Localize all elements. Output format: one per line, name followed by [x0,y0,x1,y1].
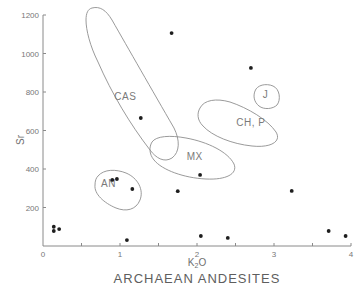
field-outline-an [95,170,141,210]
data-point [115,177,119,181]
data-point [139,116,143,120]
field-label: MX [187,151,203,162]
data-point [199,234,203,238]
data-point [290,189,294,193]
y-tick-label: 200 [26,204,40,213]
y-axis-title: Sr [15,134,26,145]
x-tick-label: 0 [41,250,46,259]
data-point [110,178,114,182]
fields-layer: CASMXCH, PJAN [86,8,279,210]
ticks-layer: 0123420040060080010001200 [21,11,354,259]
points-layer [52,31,348,242]
field-label: J [263,89,269,100]
data-point [344,234,348,238]
field-label: CAS [114,91,136,102]
data-point [52,225,56,229]
data-point [198,173,202,177]
y-tick-label: 1000 [21,50,39,59]
y-tick-label: 400 [26,165,40,174]
data-point [226,236,230,240]
data-point [176,189,180,193]
x-tick-label: 1 [118,250,123,259]
data-point [327,229,331,233]
chart-title: ARCHAEAN ANDESITES [114,271,281,286]
y-tick-label: 800 [26,88,40,97]
data-point [170,31,174,35]
x-axis-title-tail: O [198,257,206,268]
x-tick-label: 4 [349,250,354,259]
data-point [130,187,134,191]
y-tick-label: 1200 [21,11,39,20]
axes [43,15,351,246]
data-point [57,227,61,231]
data-point [52,229,56,233]
y-tick-label: 600 [26,127,40,136]
data-point [249,66,253,70]
data-point [125,238,129,242]
field-label: CH, P [236,117,265,128]
x-tick-label: 3 [272,250,277,259]
scatter-chart: CASMXCH, PJAN 0123420040060080010001200 … [0,0,364,298]
field-outline-cas [86,8,178,161]
